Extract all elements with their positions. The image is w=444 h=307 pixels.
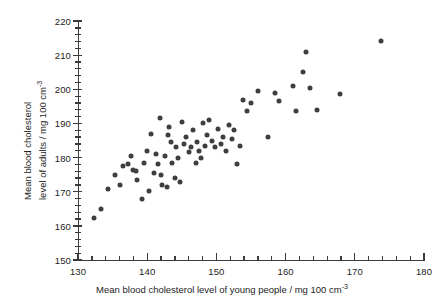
data-point bbox=[307, 85, 312, 90]
x-major-tick bbox=[216, 253, 217, 261]
y-minor-tick bbox=[75, 34, 81, 35]
data-point bbox=[91, 216, 96, 221]
x-major-tick bbox=[423, 253, 424, 261]
data-point bbox=[229, 136, 234, 141]
data-point bbox=[221, 135, 226, 140]
y-minor-tick bbox=[75, 171, 81, 172]
data-point bbox=[145, 148, 150, 153]
y-tick-label: 190 bbox=[46, 118, 71, 129]
data-point bbox=[106, 186, 111, 191]
data-point bbox=[154, 152, 159, 157]
data-point bbox=[149, 131, 154, 136]
x-tick-label: 130 bbox=[70, 266, 86, 277]
y-minor-tick bbox=[75, 177, 81, 178]
data-point bbox=[134, 168, 139, 173]
data-point bbox=[117, 182, 122, 187]
data-point bbox=[170, 160, 175, 165]
data-point bbox=[304, 49, 309, 54]
data-point bbox=[232, 128, 237, 133]
data-point bbox=[255, 88, 260, 93]
data-point bbox=[202, 143, 207, 148]
y-major-tick bbox=[73, 89, 82, 90]
data-point bbox=[140, 197, 145, 202]
y-tick-label: 210 bbox=[46, 50, 71, 61]
data-point bbox=[314, 107, 319, 112]
y-major-tick bbox=[73, 123, 82, 124]
x-tick-label: 160 bbox=[278, 266, 294, 277]
scatter-chart: 150160170180190200210220 130140150160170… bbox=[0, 0, 444, 307]
data-point bbox=[290, 83, 295, 88]
data-point bbox=[167, 124, 172, 129]
x-minor-tick bbox=[230, 256, 231, 261]
y-minor-tick bbox=[75, 143, 81, 144]
data-point bbox=[215, 126, 220, 131]
data-point bbox=[134, 177, 139, 182]
x-axis-title-text: Mean blood cholesterol level of young pe… bbox=[96, 284, 342, 295]
x-major-tick bbox=[147, 253, 148, 261]
data-point bbox=[142, 160, 147, 165]
x-axis-line bbox=[78, 260, 424, 261]
y-major-tick bbox=[73, 191, 82, 192]
y-axis-title-line-1: Mean blood cholesterol bbox=[22, 81, 34, 200]
data-point bbox=[169, 140, 174, 145]
x-minor-tick bbox=[202, 256, 203, 261]
data-point bbox=[235, 162, 240, 167]
data-point bbox=[200, 121, 205, 126]
data-point bbox=[249, 100, 254, 105]
y-tick-label: 180 bbox=[46, 152, 71, 163]
data-point bbox=[156, 162, 161, 167]
data-point bbox=[226, 123, 231, 128]
y-tick-label: 170 bbox=[46, 186, 71, 197]
data-point bbox=[195, 140, 200, 145]
x-minor-tick bbox=[327, 256, 328, 261]
y-major-tick bbox=[73, 20, 82, 21]
data-point bbox=[218, 141, 223, 146]
x-minor-tick bbox=[105, 256, 106, 261]
y-minor-tick bbox=[75, 205, 81, 206]
data-point bbox=[128, 153, 133, 158]
x-minor-tick bbox=[133, 256, 134, 261]
data-point bbox=[125, 162, 130, 167]
x-minor-tick bbox=[119, 256, 120, 261]
data-point bbox=[244, 109, 249, 114]
y-minor-tick bbox=[75, 102, 81, 103]
y-minor-tick bbox=[75, 218, 81, 219]
y-minor-tick bbox=[75, 246, 81, 247]
data-point bbox=[213, 145, 218, 150]
data-point bbox=[379, 39, 384, 44]
y-tick-label: 220 bbox=[46, 16, 71, 27]
y-minor-tick bbox=[75, 48, 81, 49]
x-minor-tick bbox=[160, 256, 161, 261]
y-minor-tick bbox=[75, 82, 81, 83]
data-point bbox=[204, 133, 209, 138]
data-point bbox=[159, 172, 164, 177]
y-axis-title-exponent: -3 bbox=[36, 81, 43, 87]
y-minor-tick bbox=[75, 198, 81, 199]
x-minor-tick bbox=[188, 256, 189, 261]
y-axis-line bbox=[78, 21, 79, 260]
y-minor-tick bbox=[75, 68, 81, 69]
y-minor-tick bbox=[75, 239, 81, 240]
data-point bbox=[337, 92, 342, 97]
data-point bbox=[147, 189, 152, 194]
data-point bbox=[224, 148, 229, 153]
data-point bbox=[183, 135, 188, 140]
y-minor-tick bbox=[75, 61, 81, 62]
x-axis-title: Mean blood cholesterol level of young pe… bbox=[96, 283, 348, 295]
y-major-tick bbox=[73, 55, 82, 56]
x-tick-label: 180 bbox=[416, 266, 432, 277]
y-minor-tick bbox=[75, 96, 81, 97]
y-minor-tick bbox=[75, 232, 81, 233]
x-minor-tick bbox=[382, 256, 383, 261]
data-point bbox=[152, 170, 157, 175]
data-point bbox=[113, 172, 118, 177]
x-minor-tick bbox=[340, 256, 341, 261]
x-major-tick bbox=[77, 253, 78, 261]
y-minor-tick bbox=[75, 164, 81, 165]
x-minor-tick bbox=[299, 256, 300, 261]
x-tick-label: 170 bbox=[347, 266, 363, 277]
data-point bbox=[186, 150, 191, 155]
data-point bbox=[188, 145, 193, 150]
data-point bbox=[174, 145, 179, 150]
y-minor-tick bbox=[75, 109, 81, 110]
